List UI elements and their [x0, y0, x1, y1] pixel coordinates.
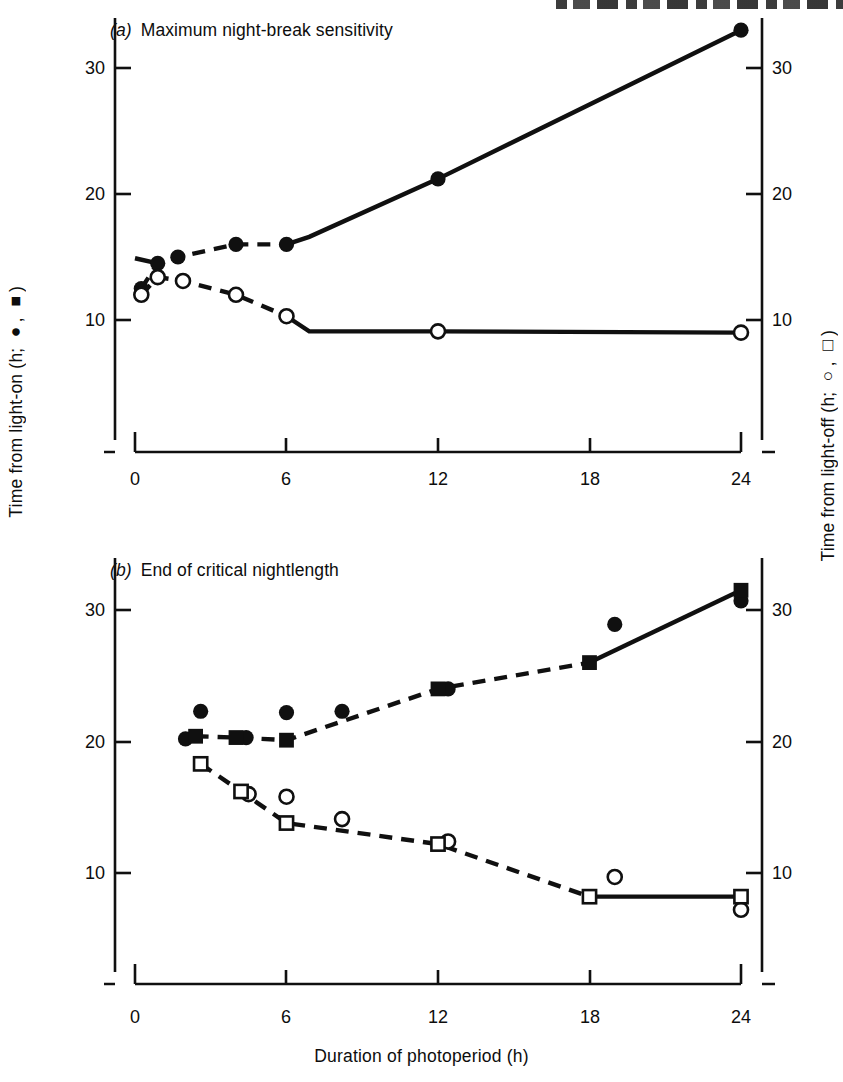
panel-b-ytick-label-right-10: 10 [772, 864, 824, 882]
panel-b-filled-square-point-1 [229, 730, 244, 745]
panel-b-right-axis-spine [762, 558, 775, 984]
panel-b-xtick-label-24: 24 [711, 1008, 771, 1026]
panel-b-open-square-point-5 [734, 890, 747, 903]
panel-b-ytick-label-right-30: 30 [772, 601, 824, 619]
panel-a-open-circle-point-5 [431, 324, 445, 338]
panel-b-ytick-label-right-20: 20 [772, 733, 824, 751]
panel-a-open-circle-point-0 [134, 288, 148, 302]
panel-b-filled-square-point-2 [279, 733, 294, 748]
panel-b-open-square-point-0 [194, 757, 207, 770]
panel-a-filled-circle-point-6 [733, 23, 748, 38]
panel-b-open-circle-point-1 [280, 790, 294, 804]
panel-b-open-square-point-3 [431, 837, 444, 850]
panel-a-filled-circle-point-3 [228, 237, 243, 252]
panel-a-open-circle-point-6 [734, 326, 748, 340]
plot-canvas [0, 0, 843, 1082]
panel-b-ytick-label-left-20: 20 [53, 733, 105, 751]
panel-a-open-circle-point-2 [176, 274, 190, 288]
panel-a-open-circle-point-4 [280, 309, 294, 323]
panel-b-xtick-label-0: 0 [105, 1008, 165, 1026]
panel-b-open-circle-point-5 [734, 903, 748, 917]
panel-a-filled-circle-point-1 [150, 256, 165, 271]
figure-root: Time from light-on (h; ●, ■) Time from l… [0, 0, 843, 1082]
panel-a-right-axis-spine [762, 18, 775, 452]
panel-b-filled-square-point-3 [431, 682, 446, 697]
panel-b-filled-square-dashed-link [196, 663, 590, 741]
panel-a-ytick-label-right-10: 10 [772, 311, 824, 329]
panel-a-xtick-label-6: 6 [256, 470, 316, 488]
panel-a-xtick-label-18: 18 [560, 470, 620, 488]
panel-b-filled-circle-point-6 [607, 617, 622, 632]
panel-a-filled-circle-point-5 [430, 171, 445, 186]
panel-a-open-circle-point-3 [229, 288, 243, 302]
panel-b-left-axis-spine [104, 558, 115, 984]
panel-b-filled-circle-point-3 [279, 705, 294, 720]
panel-b-filled-square-point-4 [582, 655, 597, 670]
panel-a-ytick-label-left-30: 30 [53, 59, 105, 77]
panel-b-open-square-point-2 [280, 816, 293, 829]
panel-a-open-circle-solid-link [287, 316, 742, 332]
panel-b-filled-circle-point-4 [334, 704, 349, 719]
panel-a-xtick-label-24: 24 [711, 470, 771, 488]
panel-a-filled-circle-point-4 [279, 237, 294, 252]
panel-a-filled-circle-point-2 [170, 249, 185, 264]
panel-b-open-circle-point-4 [608, 870, 622, 884]
panel-b-xtick-label-18: 18 [560, 1008, 620, 1026]
panel-b-ytick-label-left-10: 10 [53, 864, 105, 882]
panel-a-ytick-label-left-20: 20 [53, 185, 105, 203]
panel-b-ytick-label-left-30: 30 [53, 601, 105, 619]
panel-b-open-square-dashed-link [201, 764, 590, 897]
panel-b-open-square-point-1 [234, 785, 247, 798]
panel-b-filled-square-point-5 [734, 583, 749, 598]
panel-a-xtick-label-12: 12 [408, 470, 468, 488]
panel-b-open-circle-point-2 [335, 812, 349, 826]
panel-b-xtick-label-6: 6 [256, 1008, 316, 1026]
panel-b-filled-square-point-0 [188, 729, 203, 744]
panel-a-open-circle-point-1 [151, 270, 165, 284]
panel-a-filled-circle-solid-link [287, 30, 742, 244]
panel-a-ytick-label-right-20: 20 [772, 185, 824, 203]
panel-b-open-square-point-4 [583, 890, 596, 903]
panel-b-xtick-label-12: 12 [408, 1008, 468, 1026]
panel-a-ytick-label-left-10: 10 [53, 311, 105, 329]
panel-a-ytick-label-right-30: 30 [772, 59, 824, 77]
panel-a-left-axis-spine [104, 18, 115, 452]
panel-a-xtick-label-0: 0 [105, 470, 165, 488]
panel-b-filled-circle-point-1 [193, 704, 208, 719]
